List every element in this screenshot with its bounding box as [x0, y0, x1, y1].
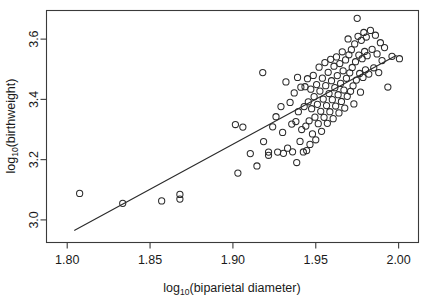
- data-point: [357, 89, 363, 95]
- x-tick-label: 1.85: [138, 253, 162, 267]
- data-point: [369, 46, 375, 52]
- data-point: [254, 163, 260, 169]
- x-axis-title-rest: (biparietal diameter): [189, 281, 300, 295]
- data-point: [339, 49, 345, 55]
- data-point: [317, 88, 323, 94]
- data-point: [260, 138, 266, 144]
- data-point: [324, 120, 330, 126]
- x-axis-tick-labels: 1.801.851.901.952.00: [55, 253, 411, 267]
- data-point: [313, 137, 319, 143]
- y-tick-label: 3.2: [28, 151, 42, 168]
- data-point: [159, 198, 165, 204]
- data-point: [352, 59, 358, 65]
- data-point: [309, 131, 315, 137]
- y-axis-title-rest: (birthweight): [4, 79, 18, 148]
- data-point: [322, 60, 328, 66]
- data-point: [376, 69, 382, 75]
- data-point: [340, 68, 346, 74]
- data-point: [327, 109, 333, 115]
- data-point: [355, 33, 361, 39]
- data-point: [372, 32, 378, 38]
- data-point: [323, 102, 329, 108]
- y-tick-label: 3.4: [28, 91, 42, 108]
- data-point: [345, 36, 351, 42]
- data-point: [177, 191, 183, 197]
- x-axis-title-base: log: [163, 281, 180, 295]
- data-point: [307, 141, 313, 147]
- data-point: [385, 84, 391, 90]
- data-point: [270, 124, 276, 130]
- data-point: [247, 151, 253, 157]
- y-axis-ticks: [41, 39, 47, 220]
- data-points-layer: [77, 15, 403, 206]
- x-tick-label: 1.90: [221, 253, 245, 267]
- data-point: [374, 51, 380, 57]
- data-point: [294, 74, 300, 80]
- data-point: [352, 41, 358, 47]
- data-point: [337, 60, 343, 66]
- data-point: [338, 98, 344, 104]
- data-point: [273, 114, 279, 120]
- data-point: [313, 82, 319, 88]
- data-point: [312, 114, 318, 120]
- data-point: [342, 105, 348, 111]
- data-point: [308, 86, 314, 92]
- data-point: [316, 64, 322, 70]
- data-point: [280, 129, 286, 135]
- data-point: [275, 149, 281, 155]
- data-point: [328, 56, 334, 62]
- data-point: [310, 72, 316, 78]
- y-axis-title-subscript: 10: [10, 147, 20, 157]
- data-point: [351, 101, 357, 107]
- data-point: [367, 27, 373, 33]
- data-point: [235, 170, 241, 176]
- data-point: [291, 90, 297, 96]
- data-point: [331, 63, 337, 69]
- data-point: [294, 159, 300, 165]
- data-point: [336, 110, 342, 116]
- y-tick-label: 3.6: [28, 30, 42, 47]
- y-axis-tick-labels: 3.03.23.43.6: [28, 30, 42, 228]
- data-point: [283, 79, 289, 85]
- data-point: [278, 104, 284, 110]
- data-point: [325, 69, 331, 75]
- y-axis-title: log10(birthweight): [4, 79, 20, 174]
- data-point: [330, 116, 336, 122]
- x-tick-label: 1.95: [304, 253, 328, 267]
- data-point: [321, 114, 327, 120]
- data-point: [318, 128, 324, 134]
- regression-line: [75, 56, 396, 231]
- data-point: [335, 92, 341, 98]
- data-point: [287, 99, 293, 105]
- data-point: [77, 190, 83, 196]
- data-point: [240, 124, 246, 130]
- x-tick-label: 1.80: [55, 253, 79, 267]
- chart-canvas: 1.801.851.901.952.00 3.03.23.43.6 log10(…: [0, 0, 440, 299]
- data-point: [309, 106, 315, 112]
- data-point: [349, 64, 355, 70]
- x-tick-label: 2.00: [386, 253, 410, 267]
- data-point: [354, 15, 360, 21]
- data-point: [297, 138, 303, 144]
- x-axis-ticks: [67, 243, 398, 249]
- data-point: [304, 76, 310, 82]
- data-point: [334, 72, 340, 78]
- data-point: [381, 44, 387, 50]
- data-point: [306, 118, 312, 124]
- data-point: [341, 87, 347, 93]
- data-point: [329, 97, 335, 103]
- y-axis-title-base: log: [4, 157, 18, 174]
- data-point: [314, 101, 320, 107]
- x-axis-title-subscript: 10: [180, 287, 190, 297]
- data-point: [328, 78, 334, 84]
- data-point: [260, 69, 266, 75]
- data-point: [302, 84, 308, 90]
- data-point: [348, 47, 354, 53]
- data-point: [299, 126, 305, 132]
- data-point: [232, 121, 238, 127]
- scatter-plot-figure: 1.801.851.901.952.00 3.03.23.43.6 log10(…: [0, 0, 440, 299]
- data-point: [319, 75, 325, 81]
- data-point: [315, 121, 321, 127]
- data-point: [318, 108, 324, 114]
- x-axis-title: log10(biparietal diameter): [163, 281, 300, 297]
